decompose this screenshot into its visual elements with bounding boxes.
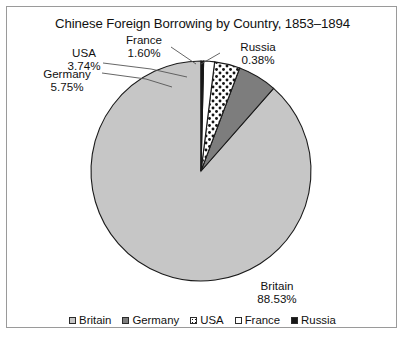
slice-label-usa-name: USA [72,46,96,59]
slice-label-france-value: 1.60% [113,46,175,59]
legend-label-britain: Britain [79,314,111,326]
legend-swatch-russia-icon [291,317,298,324]
slice-label-france-name: France [126,33,162,46]
chart-frame: Chinese Foreign Borrowing by Country, 18… [6,6,397,328]
legend-item-russia[interactable]: Russia [291,314,336,326]
slice-label-britain-value: 88.53% [235,292,319,305]
slice-label-germany: Germany 5.75% [29,67,105,93]
slice-label-russia-value: 0.38% [225,53,291,66]
slice-label-germany-value: 5.75% [29,80,105,93]
legend-label-russia: Russia [301,314,336,326]
legend-label-usa: USA [200,314,223,326]
legend-label-france: France [245,314,280,326]
legend-item-britain[interactable]: Britain [69,314,111,326]
slice-label-russia: Russia 0.38% [225,40,291,66]
legend-swatch-germany-icon [122,317,129,324]
legend-item-germany[interactable]: Germany [122,314,179,326]
slice-label-britain-name: Britain [261,279,294,292]
legend-item-usa[interactable]: USA [190,314,223,326]
slice-label-france: France 1.60% [113,33,175,59]
legend-swatch-france-icon [235,317,242,324]
slice-label-germany-name: Germany [43,67,91,80]
chart-legend: Britain Germany USA France Russia [7,314,398,326]
legend-item-france[interactable]: France [235,314,280,326]
legend-swatch-britain-icon [69,317,76,324]
slice-label-britain: Britain 88.53% [235,279,319,305]
slice-label-russia-name: Russia [240,40,275,53]
legend-label-germany: Germany [132,314,179,326]
legend-swatch-usa-icon [190,317,197,324]
